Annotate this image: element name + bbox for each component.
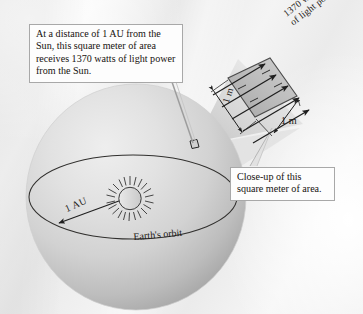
caption-main-box: At a distance of 1 AU from the Sun, this… (29, 24, 183, 83)
caption-main-text: At a distance of 1 AU from the Sun, this… (36, 28, 175, 76)
solar-constant-figure: At a distance of 1 AU from the Sun, this… (0, 0, 363, 314)
caption-closeup-text: Close-up of this square meter of area. (237, 171, 322, 194)
caption-closeup-box: Close-up of this square meter of area. (230, 167, 335, 201)
side-length-right-label: 1 m (281, 115, 297, 126)
square-meter-marker (190, 140, 199, 149)
